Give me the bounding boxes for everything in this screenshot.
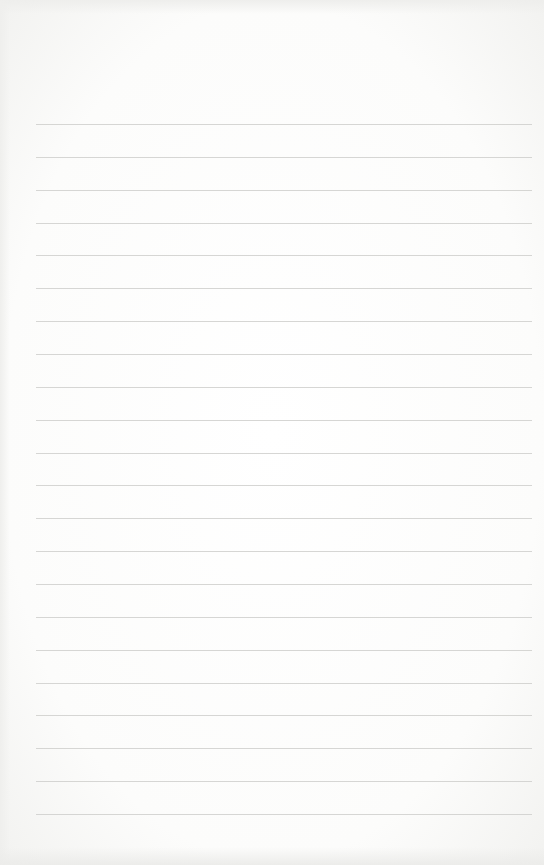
paper-left-edge	[0, 0, 10, 865]
ruled-line	[36, 223, 532, 224]
ruled-line	[36, 551, 532, 552]
ruled-line	[36, 584, 532, 585]
ruled-line	[36, 715, 532, 716]
ruled-line	[36, 354, 532, 355]
ruled-line	[36, 255, 532, 256]
ruled-line	[36, 190, 532, 191]
ruled-line	[36, 453, 532, 454]
ruled-line	[36, 781, 532, 782]
ruled-line	[36, 157, 532, 158]
ruled-line	[36, 518, 532, 519]
ruled-line	[36, 485, 532, 486]
ruled-line	[36, 321, 532, 322]
ruled-line	[36, 387, 532, 388]
ruled-line	[36, 650, 532, 651]
ruled-line	[36, 288, 532, 289]
ruled-line	[36, 617, 532, 618]
ruled-line	[36, 683, 532, 684]
lined-paper-sheet	[0, 0, 544, 865]
ruled-line	[36, 420, 532, 421]
ruled-line	[36, 814, 532, 815]
ruled-line	[36, 124, 532, 125]
ruled-line	[36, 748, 532, 749]
paper-bottom-edge	[0, 847, 544, 865]
paper-top-edge	[0, 0, 544, 14]
